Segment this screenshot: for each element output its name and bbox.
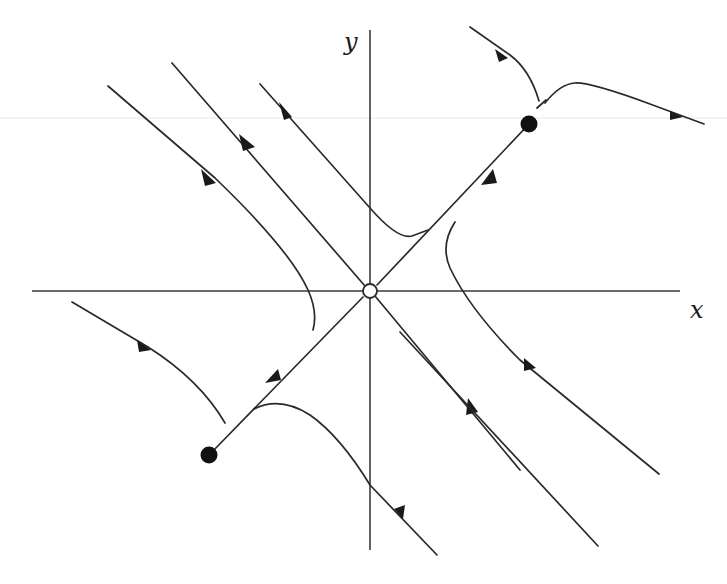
trajectory-lower-middle	[254, 404, 437, 555]
arrow-up-left-icon	[524, 358, 536, 371]
stable-equilibrium-lower-left-dot	[201, 447, 218, 464]
x-axis-label: x	[690, 296, 704, 324]
phase-portrait-diagram: x y	[0, 0, 727, 584]
trajectory-through-origin-nw-se	[172, 63, 520, 470]
trajectory-lower-left	[72, 302, 225, 423]
unstable-equilibrium-open-circle	[363, 284, 377, 298]
trajectory-right-middle	[446, 222, 659, 474]
trajectory-upper-left	[108, 86, 315, 330]
trajectory-top-right-incoming	[470, 27, 539, 101]
y-axis-label: y	[343, 28, 358, 56]
trajectory-lower-right	[400, 332, 598, 546]
trajectory-origin-to-lower-left	[212, 297, 363, 452]
trajectory-origin-to-upper-right	[377, 124, 529, 285]
stable-equilibrium-upper-right-dot	[521, 116, 538, 133]
arrow-down-right-icon	[279, 102, 292, 120]
arrow-down-right-icon	[239, 134, 255, 151]
arrow-down-right-icon	[137, 340, 151, 352]
arrow-down-left-icon	[265, 369, 281, 383]
trajectory-upper-middle	[260, 84, 428, 236]
arrow-down-right-icon	[495, 49, 508, 62]
